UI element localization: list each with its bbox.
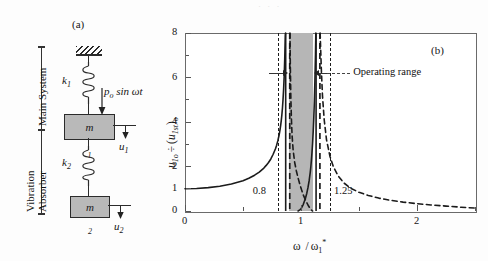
marker-label-1.25: 1.25	[334, 185, 352, 196]
mass-m2-box: m2	[70, 196, 110, 218]
bracket-cap-top	[38, 46, 45, 48]
marker-label-0.8: 0.8	[253, 185, 266, 196]
y-axis-label: u1o÷(u1st)o	[165, 117, 180, 168]
force-label: po sin ωt	[104, 85, 143, 100]
figure-root: · · · (a) Main System Vibration Absorber…	[0, 0, 488, 261]
x-axis-label: ω /ω1*	[293, 238, 326, 255]
panel-a-tag: (a)	[72, 18, 84, 30]
spring-k1-label: k1	[62, 74, 71, 89]
mass-m2-label: m2	[71, 197, 109, 242]
rod-spring2-to-mass2	[88, 185, 89, 196]
axis-tick-layer: 0.81.25012468012	[152, 0, 488, 261]
y-tick-label-8: 8	[172, 26, 177, 37]
u2-label: u2	[114, 220, 124, 235]
bracket-label-absorber: Absorber	[36, 171, 48, 212]
u1-arrow-icon	[121, 130, 130, 139]
y-tick-label-6: 6	[172, 71, 177, 82]
operating-range-arrow-left	[283, 70, 288, 76]
panel-b-chart: 0.81.25012468012 (b) Operating range ω /…	[152, 0, 488, 261]
spring-k2-icon	[79, 146, 99, 186]
x-tick-major-1	[301, 205, 302, 211]
y-tick-minor-7	[186, 55, 189, 56]
marker-line-0.8	[278, 33, 279, 211]
x-tick-label-2: 2	[414, 215, 419, 226]
x-tick-label-1: 1	[298, 215, 303, 226]
mass-m1-box: m1	[64, 114, 115, 140]
x-tick-minor-0_5	[243, 207, 244, 211]
bracket-label-vibration: Vibration	[24, 171, 36, 213]
x-tick-major-2	[417, 205, 418, 211]
y-tick-major-0	[186, 211, 191, 212]
y-tick-label-1: 1	[172, 182, 177, 193]
y-tick-major-1	[186, 188, 191, 189]
panel-a-mechanical-model: (a) Main System Vibration Absorber k1 po…	[0, 0, 152, 261]
u1-label: u1	[119, 140, 129, 155]
operating-range-annotation: Operating range	[353, 66, 421, 77]
x-tick-label-0: 0	[182, 215, 187, 226]
u2-arrow-icon	[116, 210, 125, 219]
bracket-cap-mid	[38, 129, 45, 131]
operating-range-line-right	[319, 73, 327, 74]
y-tick-major-2	[186, 166, 191, 167]
operating-range-leader-right	[327, 73, 351, 74]
x-tick-minor-2_5	[475, 207, 476, 211]
spring-k2-label: k2	[62, 156, 71, 171]
marker-line-1.25	[330, 33, 331, 211]
y-tick-label-0: 0	[172, 204, 177, 215]
panel-b-tag: (b)	[431, 44, 444, 56]
y-tick-minor-5	[186, 99, 189, 100]
y-tick-major-6	[186, 77, 191, 78]
y-tick-major-8	[186, 33, 191, 34]
bracket-label-main-system: Main System	[36, 68, 48, 126]
operating-range-line-left	[269, 73, 284, 74]
rod-spring1-to-mass1	[88, 103, 89, 114]
y-tick-minor-3	[186, 144, 189, 145]
bracket-cap-bottom	[38, 213, 45, 215]
x-tick-minor-1_5	[359, 207, 360, 211]
x-tick-major-0	[185, 205, 186, 211]
y-tick-major-4	[186, 122, 191, 123]
